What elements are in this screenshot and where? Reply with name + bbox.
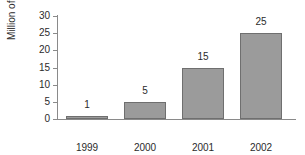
plot-area: 0 5 10 15 20 25 30 1 xyxy=(58,16,290,119)
bar-rect[interactable] xyxy=(240,33,282,119)
y-axis-tick-mark xyxy=(53,119,58,120)
bar-value-label: 25 xyxy=(240,17,282,27)
x-axis-tick-label: 2000 xyxy=(124,142,166,153)
bar-group: 15 xyxy=(182,16,224,119)
y-axis-tick-label: 30 xyxy=(39,11,50,21)
x-axis-tick-label: 1999 xyxy=(66,142,108,153)
y-axis-title: Million of gallons xyxy=(6,0,17,40)
y-axis-tick-label: 5 xyxy=(44,97,50,107)
bar-group: 25 xyxy=(240,16,282,119)
bar-rect[interactable] xyxy=(182,68,224,120)
y-axis-tick-label: 25 xyxy=(39,28,50,38)
x-axis-line xyxy=(57,119,296,120)
x-axis-tick-label: 2001 xyxy=(182,142,224,153)
bar-value-label: 5 xyxy=(124,86,166,96)
bar-rect[interactable] xyxy=(66,116,108,119)
bar-group: 1 xyxy=(66,16,108,119)
y-axis-tick-label: 15 xyxy=(39,63,50,73)
x-axis-tick-label: 2002 xyxy=(240,142,282,153)
y-axis-tick-label: 0 xyxy=(44,114,50,124)
bar-group: 5 xyxy=(124,16,166,119)
bar-value-label: 15 xyxy=(182,52,224,62)
y-axis-title-container: Million of gallons xyxy=(8,16,22,119)
bar-value-label: 1 xyxy=(66,100,108,110)
bar-chart-figure: Million of gallons 0 5 10 15 20 25 xyxy=(0,0,305,155)
y-axis-tick-label: 10 xyxy=(39,80,50,90)
y-axis-tick-label: 20 xyxy=(39,45,50,55)
bars-layer: 1 5 15 25 xyxy=(58,16,290,119)
bar-rect[interactable] xyxy=(124,102,166,119)
